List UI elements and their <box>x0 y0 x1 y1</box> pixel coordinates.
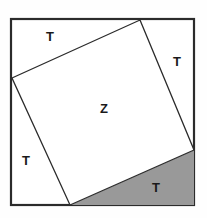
figure-canvas: T T Z T T <box>0 0 207 218</box>
label-t-bottom: T <box>152 180 160 195</box>
label-t-right: T <box>173 54 181 69</box>
geometry-figure: T T Z T T <box>0 0 207 218</box>
label-z-center: Z <box>100 101 108 116</box>
label-t-left: T <box>22 153 30 168</box>
label-t-top: T <box>46 29 54 44</box>
